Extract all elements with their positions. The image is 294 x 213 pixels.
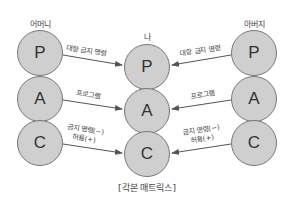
father-label: 아버지	[244, 18, 265, 29]
arrow-mother-a	[63, 100, 122, 109]
self-parent-circle: P	[124, 44, 170, 90]
arrow-mother-c	[63, 144, 122, 153]
diagram-caption: [각본 매트릭스]	[118, 181, 176, 194]
mother-parent-circle: P	[17, 30, 63, 76]
self-label: 나	[144, 31, 151, 42]
mother-child-circle: C	[17, 120, 63, 166]
arrow-father-c	[172, 144, 231, 153]
self-child-circle: C	[124, 131, 170, 177]
arrow-father-a	[172, 100, 231, 109]
father-child-circle: C	[231, 120, 277, 166]
father-adult-circle: A	[231, 76, 277, 122]
self-adult-circle: A	[124, 88, 170, 134]
father-parent-circle: P	[231, 30, 277, 76]
mother-label: 어머니	[30, 18, 51, 29]
mother-adult-circle: A	[17, 76, 63, 122]
